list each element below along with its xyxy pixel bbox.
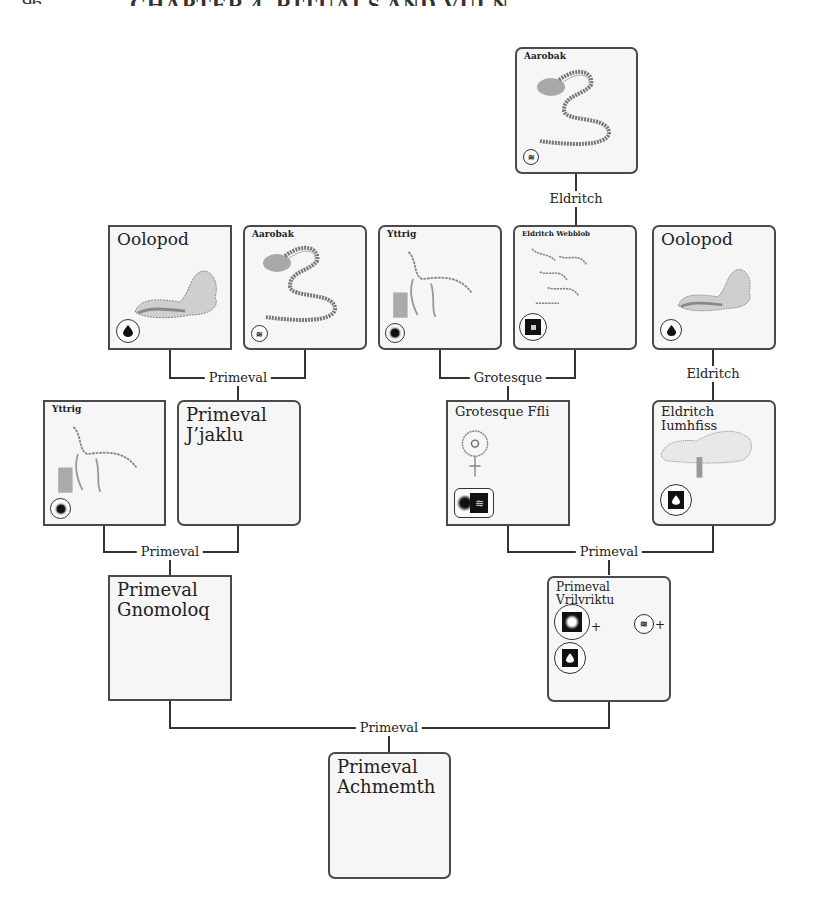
card-title-line2: J’jaklu	[186, 425, 295, 445]
card-aarobak-left[interactable]: Aarobak ≋	[243, 225, 367, 350]
card-title: Primeval Achmemth	[337, 757, 445, 797]
card-title: Eldritch Webblob	[522, 230, 631, 238]
page-number: 96	[22, 0, 42, 4]
connector-label-eldritch-right: Eldritch	[682, 366, 743, 382]
dragon-illustration	[51, 416, 141, 501]
dragon-illustration	[386, 241, 476, 326]
connector-line	[304, 349, 306, 379]
drop-icon	[660, 319, 682, 341]
connector-line	[169, 700, 171, 729]
card-title-line1: Primeval	[117, 580, 226, 600]
connector-line	[712, 525, 714, 553]
beast-illustration	[668, 257, 768, 319]
wave-icon: ≋	[634, 614, 654, 634]
card-oolopod-left[interactable]: Oolopod	[108, 225, 232, 350]
connector-line	[237, 525, 239, 553]
cloudtree-illustration	[660, 426, 755, 481]
ffli-illustration	[454, 424, 496, 480]
card-oolopod-right[interactable]: Oolopod	[652, 225, 776, 350]
serpent-illustration	[529, 65, 629, 155]
card-title: Yttrig	[387, 230, 496, 240]
card-title: Oolopod	[117, 230, 226, 249]
connector-label-primeval: Primeval	[356, 720, 422, 736]
chapter-header: CHAPTER 4. RITUALS AND VULNERABILITIES	[130, 0, 510, 6]
connector-line	[439, 349, 441, 379]
card-title: Aarobak	[524, 52, 632, 62]
connector-label-primeval: Primeval	[205, 370, 271, 386]
card-primeval-achmemth[interactable]: Primeval Achmemth	[328, 752, 451, 879]
card-title-line2: Gnomoloq	[117, 600, 226, 620]
connector-line	[608, 700, 610, 729]
card-title: Oolopod	[661, 230, 770, 249]
beast-illustration	[130, 257, 230, 327]
sun-icon	[460, 498, 470, 508]
connector-line	[103, 525, 105, 553]
card-title: Grotesque Ffli	[455, 405, 564, 419]
card-title: Yttrig	[52, 405, 160, 415]
card-yttrig-left[interactable]: Yttrig	[43, 400, 166, 526]
card-title-line2: Achmemth	[337, 777, 445, 797]
drop-icon	[116, 319, 140, 343]
card-eldritch-webblob[interactable]: Eldritch Webblob	[513, 225, 637, 350]
connector-label-primeval: Primeval	[576, 544, 642, 560]
connector-line	[507, 525, 509, 553]
card-title-line1: Primeval	[186, 405, 295, 425]
card-title: Primeval Gnomoloq	[117, 580, 226, 620]
card-primeval-gnomoloq[interactable]: Primeval Gnomoloq	[108, 575, 232, 701]
sun-icon	[385, 323, 405, 343]
wave-icon: ≋	[470, 493, 488, 513]
wave-icon: ≋	[523, 149, 539, 165]
connector-line	[169, 349, 171, 379]
square-icon	[519, 313, 547, 341]
card-yttrig-mid[interactable]: Yttrig	[378, 225, 502, 350]
drop-icon	[660, 484, 692, 516]
card-eldritch-iumhfiss[interactable]: Eldritch Iumhfiss	[652, 400, 776, 526]
serpent-illustration	[255, 241, 355, 331]
sun-icon	[50, 498, 71, 519]
connector-label-grotesque: Grotesque	[470, 370, 546, 386]
connector-label-primeval: Primeval	[137, 544, 203, 560]
plus-sign: +	[591, 620, 601, 634]
wave-icon: ≋	[251, 325, 268, 342]
drop-icon	[554, 642, 586, 674]
card-primeval-jjaklu[interactable]: Primeval J’jaklu	[177, 400, 301, 526]
card-title: Primeval J’jaklu	[186, 405, 295, 445]
card-grotesque-ffli[interactable]: Grotesque Ffli ≋	[446, 400, 570, 526]
plus-sign: +	[655, 618, 665, 632]
connector-label-eldritch-top: Eldritch	[545, 191, 606, 207]
card-title: Aarobak	[252, 230, 361, 240]
sun-icon	[554, 604, 590, 640]
web-illustration	[523, 241, 603, 311]
card-primeval-vrilvriktu[interactable]: Primeval Vrilvriktu + ≋ +	[547, 576, 671, 702]
card-title-line1: Primeval	[337, 757, 445, 777]
combined-icon-badge: ≋	[454, 488, 494, 518]
card-aarobak-top[interactable]: Aarobak ≋	[515, 47, 638, 174]
connector-line	[574, 349, 576, 379]
